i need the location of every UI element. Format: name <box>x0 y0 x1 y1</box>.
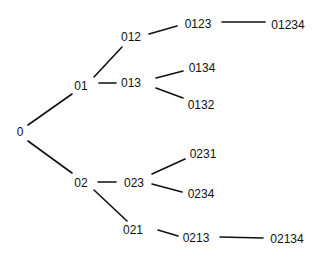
edge-0-02 <box>28 141 72 173</box>
tree-edges <box>0 0 324 258</box>
edge-0-01 <box>28 94 72 125</box>
edge-023-0231 <box>152 159 185 174</box>
node-0134: 0134 <box>189 62 216 74</box>
node-01: 01 <box>74 80 87 92</box>
edge-013-0134 <box>156 71 183 78</box>
node-0132: 0132 <box>188 99 215 111</box>
node-0123: 0123 <box>185 18 212 30</box>
edge-023-0234 <box>152 184 182 192</box>
tree-diagram: 0010201201301230123401340132023021023102… <box>0 0 324 258</box>
node-0234: 0234 <box>188 188 215 200</box>
node-0231: 0231 <box>190 148 217 160</box>
node-02: 02 <box>74 177 87 189</box>
node-02134: 02134 <box>270 233 303 245</box>
edge-0213-02134 <box>220 237 263 238</box>
edge-013-0132 <box>156 88 183 98</box>
node-023: 023 <box>124 177 144 189</box>
node-021: 021 <box>123 224 143 236</box>
edge-012-0123 <box>149 26 177 34</box>
edge-01-012 <box>94 47 122 77</box>
edge-02-021 <box>94 190 127 221</box>
node-012: 012 <box>121 31 141 43</box>
node-01234: 01234 <box>271 19 304 31</box>
node-013: 013 <box>121 77 141 89</box>
node-0: 0 <box>17 126 24 138</box>
node-0213: 0213 <box>183 232 210 244</box>
edge-021-0213 <box>158 230 178 236</box>
